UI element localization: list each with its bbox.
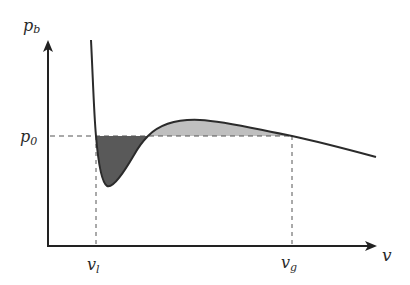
y-axis-label: pb (23, 16, 40, 36)
vl-label: vl (87, 255, 100, 276)
isotherm-curve (91, 40, 376, 186)
pv-diagram: pb p0 vl vg v (0, 0, 410, 285)
p0-label: p0 (20, 127, 37, 148)
x-axis-label: v (382, 245, 392, 265)
vg-label: vg (281, 253, 297, 274)
